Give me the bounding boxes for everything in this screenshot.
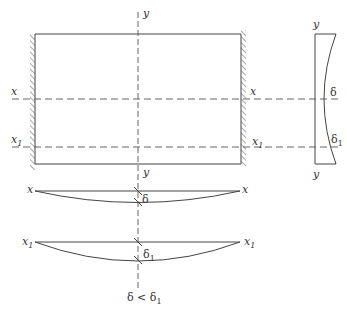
side-y-bottom-label: y: [312, 168, 320, 181]
right-clamp-hatch: [241, 30, 246, 166]
section-x-left-label: x: [27, 183, 34, 196]
section-x1-right-label: x1: [244, 235, 255, 250]
y-bottom-label: y: [142, 166, 150, 179]
side-delta-label: δ: [330, 86, 337, 99]
side-delta1-label: δ1: [331, 133, 343, 148]
x-left-label: x: [11, 85, 18, 98]
left-clamp-hatch: [30, 34, 35, 170]
section-x1-delta1-label: δ1: [143, 248, 155, 263]
section-x-right-label: x: [242, 183, 249, 196]
side-y-top-label: y: [312, 18, 320, 31]
x1-right-label: x1: [252, 135, 263, 150]
x1-left-label: x1: [11, 133, 22, 148]
conclusion-label: δ < δ1: [127, 291, 162, 306]
x-right-label: x: [250, 85, 257, 98]
y-top-label: y: [142, 7, 150, 20]
section-x1-left-label: x1: [22, 235, 33, 250]
plate-deflection-diagram: y y x x x1 x1 y y δ δ1 x x δ x1 x1 δ1 δ …: [0, 0, 347, 309]
section-x-beam: [35, 187, 240, 206]
section-x1-beam: [35, 238, 240, 264]
section-x-delta-label: δ: [142, 193, 149, 206]
